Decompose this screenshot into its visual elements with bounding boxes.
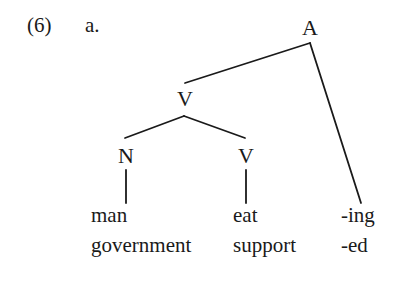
leaf-suffix-ing: -ing: [341, 205, 375, 226]
node-n: N: [114, 145, 138, 167]
leaf-man: man: [91, 205, 127, 226]
syntax-tree-diagram: (6) a. A V N V man government eat suppor…: [0, 0, 409, 281]
edge-v-to-v: [184, 116, 245, 138]
edge-a-to-suffix: [310, 43, 361, 203]
example-number: (6): [27, 15, 52, 36]
node-v-upper: V: [173, 88, 197, 110]
edge-v-to-n: [125, 116, 184, 138]
leaf-government: government: [91, 235, 191, 256]
edge-a-to-v: [185, 43, 310, 83]
example-sub-label: a.: [85, 15, 100, 36]
leaf-support: support: [233, 235, 296, 256]
leaf-eat: eat: [233, 205, 257, 226]
leaf-suffix-ed: -ed: [341, 235, 368, 256]
node-root-a: A: [298, 17, 322, 39]
node-v-lower: V: [234, 145, 258, 167]
